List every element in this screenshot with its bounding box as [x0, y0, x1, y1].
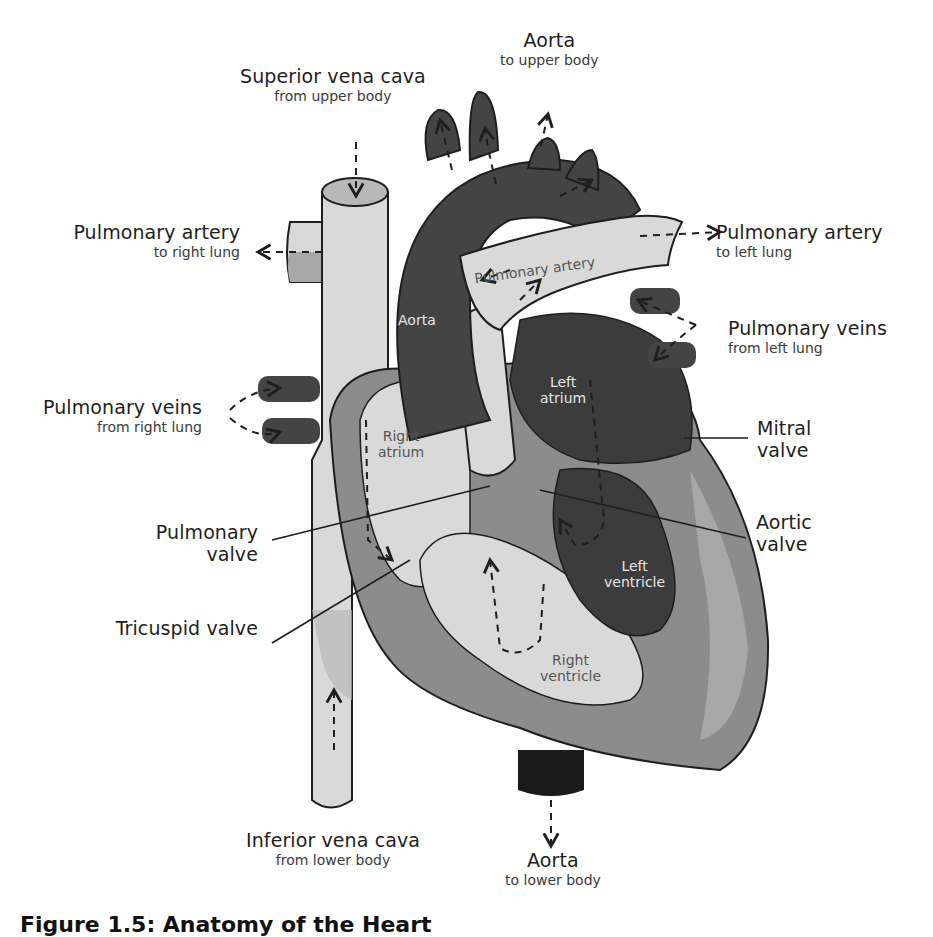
label-aorta-bottom: Aorta to lower body — [505, 850, 601, 888]
inner-label-left-atrium: Left atrium — [540, 374, 586, 406]
inner-label-right-atrium: Right atrium — [378, 428, 424, 460]
pulmonary-valve-line2: valve — [120, 544, 258, 566]
label-pulmonary-artery-left: Pulmonary artery to left lung — [716, 222, 883, 260]
figure-caption: Figure 1.5: Anatomy of the Heart — [20, 912, 432, 937]
pulmonary-veins-right-sub: from right lung — [20, 419, 202, 435]
superior-vena-cava-sub: from upper body — [240, 88, 426, 104]
label-inferior-vena-cava: Inferior vena cava from lower body — [246, 830, 420, 868]
right-ventricle-line2: ventricle — [540, 668, 601, 684]
label-pulmonary-veins-right: Pulmonary veins from right lung — [20, 397, 202, 435]
label-aorta-top: Aorta to upper body — [500, 30, 599, 68]
mitral-valve-line2: valve — [757, 440, 811, 462]
label-pulmonary-artery-right: Pulmonary artery to right lung — [55, 222, 240, 260]
descending-aorta — [518, 750, 584, 796]
label-pulmonary-valve: Pulmonary valve — [120, 522, 258, 566]
label-mitral-valve: Mitral valve — [757, 418, 811, 462]
inferior-vena-cava-sub: from lower body — [246, 852, 420, 868]
pulmonary-artery-left-title: Pulmonary artery — [716, 222, 883, 244]
pulmonary-veins-right-title: Pulmonary veins — [20, 397, 202, 419]
right-atrium-line2: atrium — [378, 444, 424, 460]
superior-vena-cava-title: Superior vena cava — [240, 66, 426, 88]
left-atrium-line1: Left — [540, 374, 586, 390]
pulmonary-veins-left-title: Pulmonary veins — [728, 318, 887, 340]
right-ventricle-line1: Right — [540, 652, 601, 668]
pulmonary-artery-right-title: Pulmonary artery — [55, 222, 240, 244]
inner-label-aorta: Aorta — [398, 312, 436, 328]
left-ventricle-line2: ventricle — [604, 574, 665, 590]
aorta-top-sub: to upper body — [500, 52, 599, 68]
pulmonary-artery-left-sub: to left lung — [716, 244, 883, 260]
inner-label-right-ventricle: Right ventricle — [540, 652, 601, 684]
pulmonary-veins-left-sub: from left lung — [728, 340, 887, 356]
mitral-valve-line1: Mitral — [757, 418, 811, 440]
label-superior-vena-cava: Superior vena cava from upper body — [240, 66, 426, 104]
aorta-top-title: Aorta — [500, 30, 599, 52]
aortic-valve-line2: valve — [756, 534, 812, 556]
left-atrium-line2: atrium — [540, 390, 586, 406]
tricuspid-valve-title: Tricuspid valve — [80, 618, 258, 640]
label-pulmonary-veins-left: Pulmonary veins from left lung — [728, 318, 887, 356]
pulmonary-artery-right-sub: to right lung — [55, 244, 240, 260]
inner-label-left-ventricle: Left ventricle — [604, 558, 665, 590]
aortic-valve-line1: Aortic — [756, 512, 812, 534]
label-aortic-valve: Aortic valve — [756, 512, 812, 556]
inferior-vena-cava-title: Inferior vena cava — [246, 830, 420, 852]
aorta-bottom-sub: to lower body — [505, 872, 601, 888]
label-tricuspid-valve: Tricuspid valve — [80, 618, 258, 640]
right-atrium-line1: Right — [378, 428, 424, 444]
left-ventricle-line1: Left — [604, 558, 665, 574]
aorta-bottom-title: Aorta — [505, 850, 601, 872]
pulmonary-valve-line1: Pulmonary — [120, 522, 258, 544]
